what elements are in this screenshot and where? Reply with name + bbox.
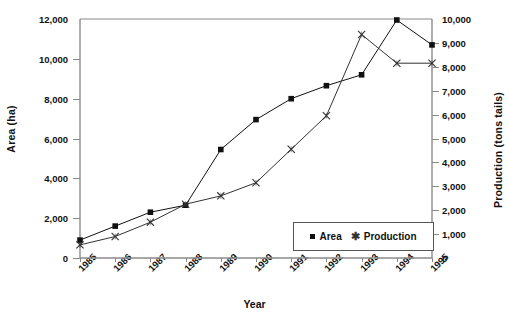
data-point-marker — [358, 31, 365, 38]
data-point-marker — [288, 96, 294, 102]
data-series-layer — [76, 17, 435, 248]
x-marker-icon: ✱ — [351, 231, 360, 242]
data-point-marker — [394, 17, 400, 23]
data-point-marker — [76, 241, 83, 248]
chart-figure: Area (ha) Production (tons tails) Year 0… — [0, 0, 509, 322]
data-point-marker — [218, 147, 224, 153]
data-point-marker — [217, 192, 224, 199]
data-point-marker — [112, 233, 119, 240]
data-point-marker — [252, 179, 259, 186]
legend-item-production: ✱ Production — [351, 231, 417, 242]
plot-area — [0, 0, 509, 322]
data-point-marker — [323, 112, 330, 119]
data-point-marker — [324, 83, 330, 89]
series-production — [76, 31, 435, 249]
data-point-marker — [148, 209, 154, 215]
legend-item-area: Area — [310, 231, 341, 242]
square-marker-icon — [310, 234, 315, 239]
chart-legend: Area ✱ Production — [293, 222, 434, 251]
legend-label-area: Area — [319, 231, 341, 242]
data-point-marker — [147, 219, 154, 226]
data-point-marker — [429, 42, 435, 48]
data-point-marker — [288, 146, 295, 153]
legend-label-production: Production — [364, 231, 417, 242]
data-point-marker — [359, 72, 365, 78]
data-point-marker — [112, 223, 118, 229]
data-point-marker — [253, 117, 259, 123]
